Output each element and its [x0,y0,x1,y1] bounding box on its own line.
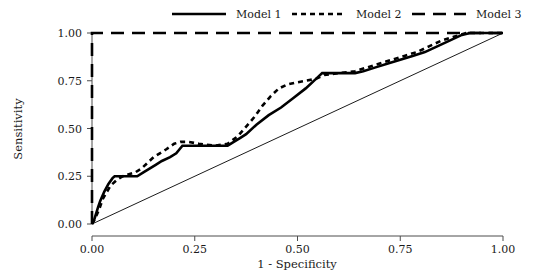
x-tick-label: 0.75 [388,243,413,256]
x-tick-label: 0.00 [80,243,105,256]
x-axis-title: 1 - Specificity [257,257,337,271]
y-tick-label: 1.00 [58,27,83,40]
x-tick-label: 0.50 [285,243,310,256]
y-tick-label: 0.75 [58,75,83,88]
legend-label-model-1: Model 1 [236,8,281,21]
roc-chart-canvas: Model 1 Model 2 Model 3 0.000.250.500.75… [0,0,551,278]
y-tick-label: 0.50 [58,123,83,136]
x-tick-label: 1.00 [491,243,516,256]
y-tick-label: 0.25 [58,170,83,183]
legend-label-model-3: Model 3 [476,8,521,21]
roc-curve-figure: Model 1 Model 2 Model 3 0.000.250.500.75… [0,0,551,278]
y-axis-title: Sensitivity [11,98,25,160]
legend-label-model-2: Model 2 [356,8,401,21]
y-tick-label: 0.00 [58,218,83,231]
x-tick-label: 0.25 [183,243,208,256]
